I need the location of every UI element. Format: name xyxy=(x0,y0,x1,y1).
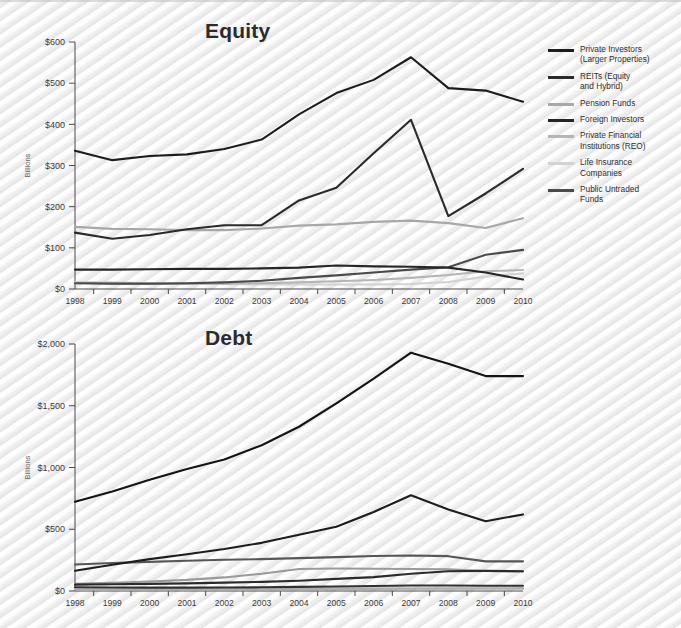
x-tick-label: 2002 xyxy=(215,598,234,608)
x-tick-label: 2005 xyxy=(327,296,346,306)
legend-swatch-icon xyxy=(548,119,574,122)
legend-item[interactable]: Foreign Investors xyxy=(548,114,681,124)
y-axis-title: Billions xyxy=(23,153,32,177)
equity-chart-panel: Equity $0$100$200$300$400$500$6001998199… xyxy=(0,0,681,314)
x-tick-label: 2003 xyxy=(252,598,271,608)
x-tick-label: 2005 xyxy=(327,598,346,608)
equity-plot-area: $0$100$200$300$400$500$60019981999200020… xyxy=(0,0,540,314)
x-tick-label: 1998 xyxy=(65,296,84,306)
legend-item-label: Life Insurance Companies xyxy=(580,157,632,178)
y-tick-label: $400 xyxy=(45,120,65,130)
y-tick-label: $500 xyxy=(45,78,65,88)
x-tick-label: 2009 xyxy=(476,598,495,608)
x-tick-label: 1999 xyxy=(103,598,122,608)
y-axis-title: Billions xyxy=(23,455,32,479)
series-line xyxy=(75,120,523,239)
legend-swatch-icon xyxy=(548,135,574,138)
x-tick-label: 2000 xyxy=(140,598,159,608)
x-tick-label: 2008 xyxy=(439,296,458,306)
x-tick-label: 2006 xyxy=(364,598,383,608)
x-tick-label: 2002 xyxy=(215,296,234,306)
debt-svg: $0$500$1,000$1,500$2,0001998199920002001… xyxy=(0,314,540,628)
y-tick-label: $0 xyxy=(55,284,65,294)
legend-swatch-icon xyxy=(548,103,574,106)
y-tick-label: $1,000 xyxy=(37,463,65,473)
legend-item[interactable]: Public Untraded Funds xyxy=(548,184,681,205)
legend-item-label: REITs (Equity and Hybrid) xyxy=(580,71,630,92)
y-tick-label: $200 xyxy=(45,202,65,212)
legend-swatch-icon xyxy=(548,162,574,165)
legend-item-label: Public Untraded Funds xyxy=(580,184,639,205)
y-tick-label: $600 xyxy=(45,37,65,47)
legend-item[interactable]: REITs (Equity and Hybrid) xyxy=(548,71,681,92)
x-tick-label: 2010 xyxy=(513,296,532,306)
x-tick-label: 2008 xyxy=(439,598,458,608)
legend-item-label: Foreign Investors xyxy=(580,114,644,124)
x-tick-label: 1998 xyxy=(65,598,84,608)
legend-item[interactable]: Pension Funds xyxy=(548,98,681,108)
x-tick-label: 2009 xyxy=(476,296,495,306)
legend-swatch-icon xyxy=(548,76,574,79)
equity-svg: $0$100$200$300$400$500$60019981999200020… xyxy=(0,0,540,314)
x-tick-label: 2000 xyxy=(140,296,159,306)
legend-swatch-icon xyxy=(548,189,574,192)
y-tick-label: $1,500 xyxy=(37,401,65,411)
y-tick-label: $100 xyxy=(45,243,65,253)
series-line xyxy=(75,495,523,570)
series-line xyxy=(75,353,523,502)
x-tick-label: 2007 xyxy=(401,296,420,306)
x-tick-label: 2010 xyxy=(513,598,532,608)
x-tick-label: 2004 xyxy=(289,296,308,306)
legend-item-label: Pension Funds xyxy=(580,98,635,108)
equity-legend: Private Investors (Larger Properties)REI… xyxy=(548,44,681,211)
series-line xyxy=(75,218,523,230)
legend-item[interactable]: Life Insurance Companies xyxy=(548,157,681,178)
x-tick-label: 2006 xyxy=(364,296,383,306)
x-tick-label: 2001 xyxy=(177,296,196,306)
legend-item-label: Private Financial Institutions (REO) xyxy=(580,130,645,151)
y-tick-label: $500 xyxy=(45,524,65,534)
y-tick-label: $300 xyxy=(45,161,65,171)
legend-swatch-icon xyxy=(548,49,574,52)
y-tick-label: $0 xyxy=(55,586,65,596)
x-tick-label: 2001 xyxy=(177,598,196,608)
debt-plot-area: $0$500$1,000$1,500$2,0001998199920002001… xyxy=(0,314,540,628)
legend-item[interactable]: Private Financial Institutions (REO) xyxy=(548,130,681,151)
legend-item-label: Private Investors (Larger Properties) xyxy=(580,44,650,65)
x-tick-label: 2003 xyxy=(252,296,271,306)
x-tick-label: 2004 xyxy=(289,598,308,608)
x-tick-label: 1999 xyxy=(103,296,122,306)
x-tick-label: 2007 xyxy=(401,598,420,608)
legend-item[interactable]: Private Investors (Larger Properties) xyxy=(548,44,681,65)
series-line xyxy=(75,57,523,160)
y-tick-label: $2,000 xyxy=(37,339,65,349)
debt-chart-panel: Debt $0$500$1,000$1,500$2,00019981999200… xyxy=(0,314,681,628)
